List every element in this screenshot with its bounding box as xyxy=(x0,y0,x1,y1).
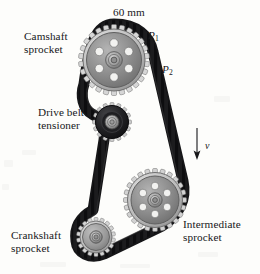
crankshaft-sprocket xyxy=(76,218,115,257)
tensioner-label-line1: Drive belt xyxy=(38,106,84,118)
drive-belt-tensioner xyxy=(93,103,132,142)
tension-label-p1: P1 xyxy=(148,29,159,46)
intermediate-sprocket xyxy=(124,169,187,232)
camshaft-sprocket-label: Camshaftsprocket xyxy=(24,30,68,55)
crankshaft-label-line2: sprocket xyxy=(11,242,50,254)
p1-subscript: 1 xyxy=(155,34,159,43)
intermediate-label-line2: sprocket xyxy=(183,231,222,243)
velocity-arrow xyxy=(194,128,201,160)
velocity-label: v xyxy=(205,140,210,153)
intermediate-sprocket-label: Intermediatesprocket xyxy=(183,218,241,243)
tensioner-bore xyxy=(110,120,114,124)
camshaft-bore xyxy=(111,57,117,63)
tension-label-p2: P2 xyxy=(162,63,173,80)
intermediate-label-line1: Intermediate xyxy=(183,218,241,230)
drive-belt-tensioner-label: Drive belttensioner xyxy=(38,106,84,131)
crankshaft-label-line1: Crankshaft xyxy=(11,229,61,241)
camshaft-label-line1: Camshaft xyxy=(24,30,68,42)
figure-canvas: 60 mm Camshaftsprocket Drive belttension… xyxy=(0,0,260,274)
camshaft-label-line2: sprocket xyxy=(24,43,63,55)
crankshaft-bore xyxy=(94,235,98,239)
p2-subscript: 2 xyxy=(169,68,173,77)
crankshaft-sprocket-label: Crankshaftsprocket xyxy=(11,229,61,254)
p1-symbol: P xyxy=(148,29,155,41)
dimension-label-60mm: 60 mm xyxy=(113,6,145,19)
tensioner-label-line2: tensioner xyxy=(38,119,80,131)
p2-symbol: P xyxy=(162,63,169,75)
intermediate-bore xyxy=(153,198,158,203)
camshaft-sprocket xyxy=(78,25,149,96)
